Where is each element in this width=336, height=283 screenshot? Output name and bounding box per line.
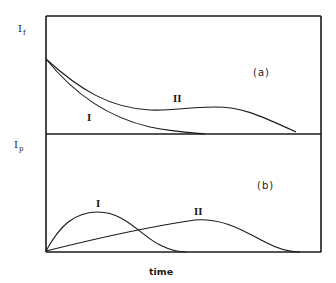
figure-canvas: If Ip (a) (b) I II I II time xyxy=(0,0,336,283)
top-panel-frame xyxy=(46,16,321,252)
panel-label-a: (a) xyxy=(253,67,270,78)
top-curve-I-label: I xyxy=(87,113,91,123)
bottom-curve-II xyxy=(46,220,300,252)
x-axis-label: time xyxy=(149,266,173,277)
top-y-label: If xyxy=(18,23,27,37)
top-curve-II-label: II xyxy=(173,94,181,104)
panel-label-b: (b) xyxy=(257,180,274,191)
bottom-curve-II-label: II xyxy=(194,207,202,217)
bottom-y-label: Ip xyxy=(14,139,24,153)
bottom-curve-I-label: I xyxy=(96,199,100,209)
